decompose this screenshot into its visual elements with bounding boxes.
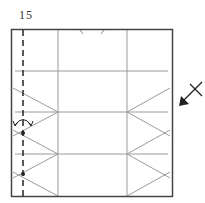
diagonal-crease xyxy=(13,112,58,136)
diagonal-crease xyxy=(127,154,170,178)
origami-diagram xyxy=(0,0,205,203)
diagonal-crease xyxy=(127,88,170,112)
diagonal-crease xyxy=(127,112,170,136)
reference-point xyxy=(21,131,25,135)
view-direction-arrow-icon xyxy=(179,82,202,106)
diagonal-crease xyxy=(13,130,58,154)
edge-tick-marks xyxy=(80,30,104,34)
diagonal-crease xyxy=(13,172,58,196)
reference-point xyxy=(21,172,25,176)
diagonal-crease xyxy=(127,172,170,196)
crease-lines xyxy=(13,29,170,196)
diagonal-crease xyxy=(127,130,170,154)
paper-frame xyxy=(12,30,173,197)
diagonal-crease xyxy=(13,88,58,112)
diagonal-crease xyxy=(13,154,58,178)
